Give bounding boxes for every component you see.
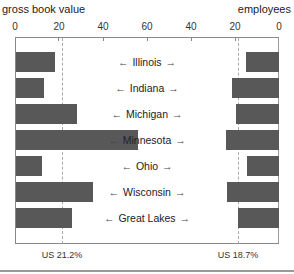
category-name: Illinois bbox=[132, 52, 161, 72]
category-label: ←Ohio→ bbox=[121, 156, 172, 176]
bar-employees bbox=[227, 182, 279, 202]
tick-right-40: 40 bbox=[185, 21, 196, 32]
tick-left-0: 0 bbox=[12, 21, 18, 32]
arrow-left-icon: ← bbox=[109, 182, 120, 202]
bar-gross-book-value bbox=[16, 182, 93, 202]
category-label: ←Wisconsin→ bbox=[109, 182, 186, 202]
tick-center-60: 60 bbox=[141, 21, 152, 32]
bar-employees bbox=[226, 130, 279, 150]
tick-mark bbox=[191, 37, 192, 41]
category-name: Indiana bbox=[130, 78, 164, 98]
category-name: Great Lakes bbox=[118, 208, 175, 228]
bottom-rule bbox=[0, 270, 294, 272]
category-name: Michigan bbox=[126, 104, 168, 124]
tick-mark bbox=[103, 37, 104, 41]
category-name: Wisconsin bbox=[123, 182, 171, 202]
tick-left-20: 20 bbox=[53, 21, 64, 32]
tick-left-40: 40 bbox=[97, 21, 108, 32]
category-label: ←Illinois→ bbox=[118, 52, 176, 72]
category-label: ←Indiana→ bbox=[115, 78, 178, 98]
category-label: ←Minnesota→ bbox=[108, 130, 185, 150]
bar-gross-book-value bbox=[16, 52, 55, 72]
bar-employees bbox=[246, 52, 279, 72]
arrow-right-icon: → bbox=[162, 156, 173, 176]
bar-employees bbox=[247, 156, 279, 176]
us-reference-label-left: US 21.2% bbox=[42, 250, 83, 260]
tick-right-20: 20 bbox=[229, 21, 240, 32]
arrow-right-icon: → bbox=[168, 78, 179, 98]
bar-employees bbox=[232, 78, 279, 98]
tick-mark bbox=[58, 37, 59, 41]
arrow-left-icon: ← bbox=[104, 208, 115, 228]
arrow-right-icon: → bbox=[180, 208, 191, 228]
arrow-right-icon: → bbox=[166, 52, 177, 72]
bar-gross-book-value bbox=[16, 208, 72, 228]
arrow-left-icon: ← bbox=[115, 78, 126, 98]
us-reference-label-right: US 18.7% bbox=[218, 250, 259, 260]
left-axis-title: gross book value bbox=[2, 3, 85, 15]
category-label: ←Great Lakes→ bbox=[104, 208, 190, 228]
bar-gross-book-value bbox=[16, 104, 77, 124]
arrow-right-icon: → bbox=[175, 182, 186, 202]
right-axis-title: employees bbox=[238, 3, 291, 15]
bar-employees bbox=[236, 104, 279, 124]
bar-gross-book-value bbox=[16, 78, 44, 98]
bar-gross-book-value bbox=[16, 156, 42, 176]
arrow-left-icon: ← bbox=[111, 104, 122, 124]
tick-right-0: 0 bbox=[276, 21, 282, 32]
arrow-left-icon: ← bbox=[118, 52, 129, 72]
bar-employees bbox=[238, 208, 279, 228]
arrow-right-icon: → bbox=[175, 130, 186, 150]
tick-mark bbox=[147, 37, 148, 41]
arrow-left-icon: ← bbox=[121, 156, 132, 176]
arrow-right-icon: → bbox=[172, 104, 183, 124]
category-name: Minnesota bbox=[123, 130, 171, 150]
tick-mark bbox=[235, 37, 236, 41]
arrow-left-icon: ← bbox=[108, 130, 119, 150]
category-label: ←Michigan→ bbox=[111, 104, 182, 124]
category-name: Ohio bbox=[136, 156, 158, 176]
